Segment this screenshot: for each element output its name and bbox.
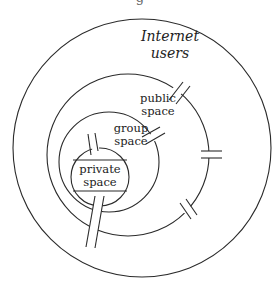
public-gate-right-icon	[201, 151, 222, 158]
private-space-label: private space	[75, 163, 125, 189]
group-space-label-line2: space	[111, 135, 151, 148]
private-space-label-line2: space	[75, 176, 125, 189]
public-space-label: public space	[138, 92, 178, 118]
private-upper-channel-icon	[88, 132, 99, 155]
public-space-label-line2: space	[138, 105, 178, 118]
nested-spaces-diagram: g	[0, 0, 280, 295]
group-space-label: group space	[111, 122, 151, 148]
internet-users-label: Internet users	[140, 28, 200, 62]
internet-users-label-line1: Internet	[140, 28, 200, 45]
internet-users-label-line2: users	[140, 45, 200, 62]
